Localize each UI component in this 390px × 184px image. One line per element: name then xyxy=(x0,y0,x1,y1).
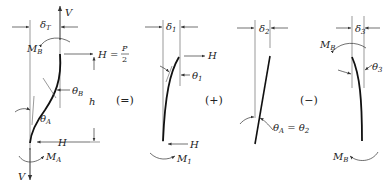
svg-text:θ1: θ1 xyxy=(192,70,203,83)
label-h: h xyxy=(89,96,95,107)
panel-2: δ2 θA = θ2 xyxy=(237,20,310,144)
svg-text:MA: MA xyxy=(45,151,61,164)
label-v-bottom: V xyxy=(18,171,27,182)
svg-text:MB: MB xyxy=(332,151,348,164)
operator-equals: (=) xyxy=(116,94,134,107)
svg-text:θA: θA xyxy=(40,113,51,126)
svg-text:δ2: δ2 xyxy=(259,23,270,36)
label-moment-a: M xyxy=(45,151,57,162)
operator-minus: (−) xyxy=(300,94,318,107)
label-moment-b-bottom: M xyxy=(332,151,344,162)
label-p: P xyxy=(121,44,128,53)
svg-text:θB: θB xyxy=(72,85,83,98)
label-moment-b-top: M xyxy=(319,39,331,50)
label-v-top: V xyxy=(65,7,74,18)
panel-3: δ3 MB θ3 MB xyxy=(319,16,383,164)
svg-text:θA = θ2: θA = θ2 xyxy=(273,122,310,135)
svg-text:θ3: θ3 xyxy=(372,61,383,74)
svg-text:H =: H = xyxy=(97,49,118,60)
svg-text:δ3: δ3 xyxy=(355,23,366,36)
svg-text:MB: MB xyxy=(319,39,335,52)
label-moment-b: M xyxy=(26,43,38,54)
svg-text:M1: M1 xyxy=(176,153,192,166)
label-h-equals: H = xyxy=(97,49,118,60)
svg-text:δ1: δ1 xyxy=(166,21,177,34)
label-h-bottom: H xyxy=(57,137,67,148)
label-h-bottom-1: H xyxy=(189,139,199,150)
panel-1: δ1 H θ1 H M1 xyxy=(145,20,217,166)
svg-text:V: V xyxy=(65,7,74,18)
svg-text:δT: δT xyxy=(40,19,52,32)
label-two: 2 xyxy=(122,55,127,64)
label-h-top-1: H xyxy=(207,50,217,61)
operator-plus: (+) xyxy=(205,94,223,107)
label-moment-1: M xyxy=(176,153,188,164)
panel-main: V δT MB H = P 2 θB h θA H MA V xyxy=(12,6,129,182)
column-deflection-diagram: V δT MB H = P 2 θB h θA H MA V (=) δ1 H … xyxy=(0,0,390,184)
svg-text:MB: MB xyxy=(26,43,42,56)
